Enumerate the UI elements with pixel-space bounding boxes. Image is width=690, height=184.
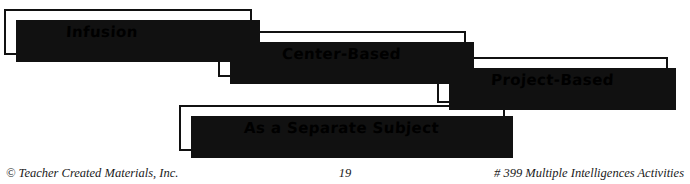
diagram-box-label: Infusion (66, 23, 139, 41)
page-canvas: Infusion Center-Based Project-Based As a… (0, 0, 690, 184)
diagram-box-label: As a Separate Subject (244, 119, 440, 137)
diagram-box-label: Project-Based (491, 71, 615, 89)
diagram-box-as-a-separate-subject: As a Separate Subject (179, 105, 505, 151)
page-footer: © Teacher Created Materials, Inc. 19 # 3… (0, 163, 690, 184)
diagram-box-label: Center-Based (282, 45, 402, 63)
footer-source-title: # 399 Multiple Intelligences Activities (494, 166, 684, 181)
diagram-box-infusion: Infusion (4, 9, 252, 55)
